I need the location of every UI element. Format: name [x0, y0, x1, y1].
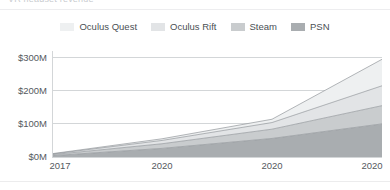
- clipped-chart-title: VR headset revenue: [8, 0, 94, 4]
- x-axis-tick-label: 2020: [151, 161, 172, 171]
- x-axis-tick-label: 2020: [261, 161, 282, 171]
- legend-label: Oculus Rift: [170, 22, 216, 32]
- legend-item-steam[interactable]: Steam: [231, 22, 277, 32]
- legend-swatch-icon: [231, 23, 245, 31]
- legend-label: Oculus Quest: [79, 22, 137, 32]
- header-divider: [0, 9, 390, 10]
- x-axis-tick-label: 2020: [361, 161, 382, 171]
- y-axis-tick-label: $200M: [18, 86, 47, 96]
- legend-item-oculus-rift[interactable]: Oculus Rift: [151, 22, 216, 32]
- legend-swatch-icon: [291, 23, 305, 31]
- chart-screenshot: VR headset revenue Oculus Quest Oculus R…: [0, 0, 390, 190]
- footer-divider: [0, 181, 390, 182]
- chart-legend: Oculus Quest Oculus Rift Steam PSN: [0, 20, 390, 34]
- y-axis-labels: $0M$100M$200M$300M: [0, 40, 52, 165]
- y-axis-tick-label: $100M: [18, 119, 47, 129]
- y-axis-tick-label: $300M: [18, 53, 47, 63]
- x-axis-tick-label: 2017: [49, 161, 70, 171]
- legend-label: Steam: [250, 22, 277, 32]
- clipped-header-strip: VR headset revenue: [0, 0, 390, 9]
- legend-swatch-icon: [60, 23, 74, 31]
- plot-area: [0, 40, 390, 165]
- legend-swatch-icon: [151, 23, 165, 31]
- legend-item-oculus-quest[interactable]: Oculus Quest: [60, 22, 137, 32]
- area-series-group: [52, 59, 382, 157]
- stacked-area-svg: [0, 40, 390, 165]
- legend-label: PSN: [310, 22, 330, 32]
- legend-item-psn[interactable]: PSN: [291, 22, 330, 32]
- x-axis-labels: 2017202020202020: [0, 161, 390, 175]
